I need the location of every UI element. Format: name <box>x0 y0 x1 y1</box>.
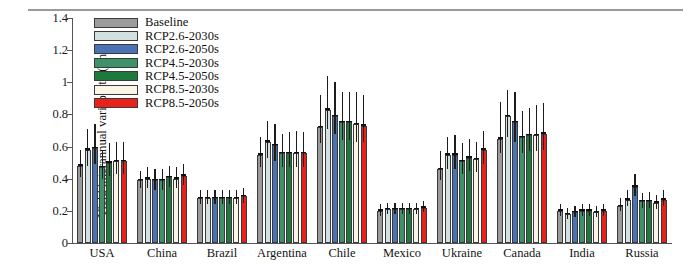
bar-item[interactable] <box>437 18 443 243</box>
legend-item[interactable]: RCP4.5-2050s <box>94 70 219 83</box>
bar-item[interactable] <box>413 18 419 243</box>
error-bar-cap <box>579 209 585 210</box>
bar-item[interactable] <box>505 18 511 243</box>
error-bar <box>260 137 261 168</box>
bar-item[interactable] <box>579 18 585 243</box>
bar-item[interactable] <box>625 18 631 243</box>
error-bar-cap <box>354 123 360 124</box>
bar-item[interactable] <box>346 18 352 243</box>
y-axis-tick <box>67 147 72 148</box>
x-axis-category-label: China <box>147 246 177 261</box>
error-bar-cap <box>526 134 532 135</box>
bar <box>257 155 263 243</box>
legend-item[interactable]: Baseline <box>94 16 219 29</box>
error-bar-cap <box>565 213 571 214</box>
bar-item[interactable] <box>466 18 472 243</box>
bar-item[interactable] <box>301 18 307 243</box>
bar-item[interactable] <box>459 18 465 243</box>
error-bar-cap <box>572 211 578 212</box>
bar-item[interactable] <box>332 18 338 243</box>
bar-item[interactable] <box>317 18 323 243</box>
bar-item[interactable] <box>219 18 225 243</box>
error-bar-cap <box>99 166 105 167</box>
bar-item[interactable] <box>226 18 232 243</box>
error-bar-cap <box>646 200 652 201</box>
bar-item[interactable] <box>541 18 547 243</box>
bar-item[interactable] <box>586 18 592 243</box>
bar-item[interactable] <box>421 18 427 243</box>
y-axis-tick <box>67 179 72 180</box>
bar <box>241 196 247 243</box>
bar-item[interactable] <box>481 18 487 243</box>
x-axis-category-label: Brazil <box>207 246 238 261</box>
bar-item[interactable] <box>353 18 359 243</box>
bar-item[interactable] <box>241 18 247 243</box>
bar-item[interactable] <box>399 18 405 243</box>
bar-item[interactable] <box>617 18 623 243</box>
y-axis-tick-label: 1.4 <box>52 11 68 26</box>
legend-item[interactable]: RCP4.5-2030s <box>94 56 219 69</box>
bar-item[interactable] <box>661 18 667 243</box>
bar-item[interactable] <box>361 18 367 243</box>
bar <box>317 127 323 243</box>
bar-item[interactable] <box>473 18 479 243</box>
error-bar-cap <box>332 115 338 116</box>
bar-item[interactable] <box>385 18 391 243</box>
bar <box>533 135 539 243</box>
bar-item[interactable] <box>452 18 458 243</box>
error-bar <box>454 135 455 169</box>
error-bar-cap <box>145 177 151 178</box>
bar-item[interactable] <box>325 18 331 243</box>
error-bar-cap <box>534 134 540 135</box>
bar-item[interactable] <box>512 18 518 243</box>
bar-item[interactable] <box>526 18 532 243</box>
bar-item[interactable] <box>257 18 263 243</box>
bar-item[interactable] <box>557 18 563 243</box>
bar-item[interactable] <box>533 18 539 243</box>
bar <box>361 126 367 243</box>
bar-item[interactable] <box>572 18 578 243</box>
x-axis-line <box>72 243 672 244</box>
bar-item[interactable] <box>85 18 91 243</box>
bar-item[interactable] <box>601 18 607 243</box>
x-axis-category-label: India <box>569 246 595 261</box>
bar-item[interactable] <box>639 18 645 243</box>
bar-item[interactable] <box>406 18 412 243</box>
x-axis-category-label: Russia <box>625 246 658 261</box>
bar-item[interactable] <box>519 18 525 243</box>
error-bar-cap <box>272 144 278 145</box>
legend-swatch <box>94 44 138 54</box>
legend-item[interactable]: RCP8.5-2030s <box>94 83 219 96</box>
error-bar-cap <box>121 160 127 161</box>
bar-item[interactable] <box>293 18 299 243</box>
bar-item[interactable] <box>497 18 503 243</box>
bar-item[interactable] <box>565 18 571 243</box>
bar-item[interactable] <box>77 18 83 243</box>
y-axis-tick-label: 0.8 <box>52 107 68 122</box>
bar-item[interactable] <box>286 18 292 243</box>
bar-item[interactable] <box>653 18 659 243</box>
legend-swatch <box>94 98 138 108</box>
bar-item[interactable] <box>279 18 285 243</box>
bar-item[interactable] <box>265 18 271 243</box>
bar-item[interactable] <box>339 18 345 243</box>
error-bar-cap <box>301 152 307 153</box>
bar-item[interactable] <box>272 18 278 243</box>
bar-item[interactable] <box>392 18 398 243</box>
bar-item[interactable] <box>593 18 599 243</box>
legend-item[interactable]: RCP2.6-2050s <box>94 43 219 56</box>
bar-item[interactable] <box>646 18 652 243</box>
bar-item[interactable] <box>377 18 383 243</box>
legend-item[interactable]: RCP8.5-2050s <box>94 96 219 109</box>
bar-item[interactable] <box>445 18 451 243</box>
error-bar-cap <box>78 164 84 165</box>
bar-item[interactable] <box>632 18 638 243</box>
y-axis-tick-label: 1.2 <box>52 43 68 58</box>
bar-item[interactable] <box>233 18 239 243</box>
error-bar <box>356 92 357 142</box>
error-bar-cap <box>406 208 412 209</box>
error-bar-cap <box>399 208 405 209</box>
legend-item[interactable]: RCP2.6-2030s <box>94 29 219 42</box>
header-divider <box>28 9 683 11</box>
error-bar <box>267 121 268 158</box>
